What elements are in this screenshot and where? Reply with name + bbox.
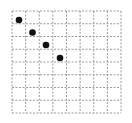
dot-grid-board[interactable] bbox=[0, 0, 132, 123]
game-piece-dot[interactable] bbox=[57, 55, 64, 62]
grid-lines bbox=[12, 11, 121, 113]
game-piece-dot[interactable] bbox=[16, 17, 23, 24]
game-piece-dot[interactable] bbox=[43, 42, 50, 49]
game-piece-dot[interactable] bbox=[29, 29, 36, 36]
